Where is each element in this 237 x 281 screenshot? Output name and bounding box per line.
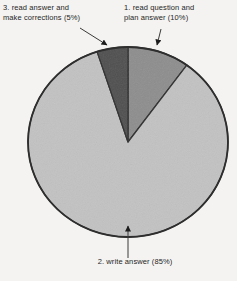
arrow-to-plan-slice: [157, 29, 161, 45]
pie-chart: [0, 0, 237, 281]
arrow-to-corrections-slice: [80, 28, 107, 45]
pie-grain-texture: [28, 47, 228, 237]
pie-chart-figure: 3. read answer and make corrections (5%)…: [0, 0, 237, 281]
